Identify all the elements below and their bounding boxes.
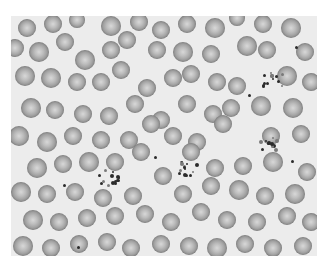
platelet <box>154 156 157 159</box>
red-blood-cell <box>285 184 305 204</box>
red-blood-cell <box>205 18 225 38</box>
red-blood-cell <box>126 95 144 113</box>
platelet <box>178 172 181 175</box>
red-blood-cell <box>78 209 96 227</box>
platelet <box>272 78 274 80</box>
red-blood-cell <box>202 177 220 195</box>
red-blood-cell <box>294 237 312 255</box>
red-blood-cell <box>174 185 192 203</box>
red-blood-cell <box>18 19 36 37</box>
red-blood-cell <box>180 237 198 255</box>
red-blood-cell <box>38 185 56 203</box>
platelet <box>107 184 110 187</box>
red-blood-cell <box>92 131 110 149</box>
red-blood-cell <box>229 180 249 200</box>
red-blood-cell <box>70 235 88 253</box>
red-blood-cell <box>21 98 41 118</box>
red-blood-cell <box>11 182 31 202</box>
red-blood-cell <box>164 127 182 145</box>
platelet <box>295 46 298 49</box>
red-blood-cell <box>124 187 142 205</box>
red-blood-cell <box>207 238 227 256</box>
red-blood-cell <box>251 96 271 116</box>
red-blood-cell <box>302 213 317 231</box>
red-blood-cell <box>182 65 200 83</box>
red-blood-cell <box>164 69 182 87</box>
red-blood-cell <box>46 101 64 119</box>
red-blood-cell <box>142 115 160 133</box>
red-blood-cell <box>44 16 62 33</box>
red-blood-cell <box>98 233 116 251</box>
red-blood-cell <box>66 183 84 201</box>
red-blood-cell <box>11 126 29 146</box>
red-blood-cell <box>263 152 283 172</box>
red-blood-cell <box>152 21 170 39</box>
red-blood-cell <box>130 16 148 31</box>
red-blood-cell <box>101 16 121 36</box>
red-blood-cell <box>258 41 276 59</box>
red-blood-cell <box>132 143 150 161</box>
red-blood-cell <box>264 239 282 256</box>
platelet <box>118 177 120 179</box>
platelet <box>195 163 199 167</box>
red-blood-cell <box>283 98 303 118</box>
red-blood-cell <box>202 45 220 63</box>
red-blood-cell <box>237 36 257 56</box>
platelet <box>266 82 269 85</box>
red-blood-cell <box>29 42 49 62</box>
red-blood-cell <box>41 68 61 88</box>
red-blood-cell <box>229 16 245 26</box>
red-blood-cell <box>68 73 86 91</box>
red-blood-cell <box>56 33 74 51</box>
platelet <box>186 163 188 165</box>
platelet <box>189 174 192 177</box>
red-blood-cell <box>102 41 120 59</box>
red-blood-cell <box>148 41 166 59</box>
platelet <box>275 139 279 143</box>
red-blood-cell <box>106 153 124 171</box>
red-blood-cell <box>236 235 254 253</box>
red-blood-cell <box>106 207 124 225</box>
red-blood-cell <box>214 115 232 133</box>
platelet <box>110 174 114 178</box>
red-blood-cell <box>234 157 252 175</box>
platelet <box>259 140 263 144</box>
platelet <box>275 75 278 78</box>
red-blood-cell <box>154 167 172 185</box>
red-blood-cell <box>75 50 95 70</box>
platelet <box>262 85 265 88</box>
platelet <box>270 142 274 146</box>
red-blood-cell <box>248 213 266 231</box>
red-blood-cell <box>206 159 224 177</box>
platelet <box>270 74 274 78</box>
red-blood-cell <box>11 39 24 57</box>
red-blood-cell <box>54 155 72 173</box>
red-blood-cell <box>228 77 246 95</box>
platelet <box>185 174 188 177</box>
platelet <box>183 166 186 169</box>
red-blood-cell <box>27 158 47 178</box>
platelet <box>248 94 251 97</box>
red-blood-cell <box>292 125 310 143</box>
platelet <box>63 184 66 187</box>
red-blood-cell <box>162 213 180 231</box>
red-blood-cell <box>64 127 82 145</box>
red-blood-cell <box>136 205 154 223</box>
red-blood-cell <box>173 42 193 62</box>
platelet <box>261 148 264 151</box>
red-blood-cell <box>281 18 301 38</box>
red-blood-cell <box>296 43 314 61</box>
red-blood-cell <box>122 239 140 256</box>
red-blood-cell <box>278 207 296 225</box>
red-blood-cell <box>79 152 99 172</box>
platelet <box>274 148 278 152</box>
platelet <box>102 180 105 183</box>
red-blood-cell <box>192 203 210 221</box>
red-blood-cell <box>254 16 272 33</box>
red-blood-cell <box>256 187 274 205</box>
blood-smear-micrograph <box>11 16 317 256</box>
red-blood-cell <box>118 31 136 49</box>
platelet <box>112 171 114 173</box>
platelet <box>270 72 272 74</box>
red-blood-cell <box>152 235 170 253</box>
